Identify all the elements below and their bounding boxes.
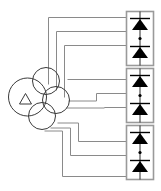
wire-module2-bottom bbox=[67, 108, 127, 109]
wire-module1-bottom bbox=[65, 46, 128, 98]
module-1-junction-dot bbox=[138, 37, 141, 40]
wire-module2-mid bbox=[69, 94, 127, 102]
module-3[interactable] bbox=[127, 126, 154, 180]
wire-module3-top bbox=[58, 123, 127, 142]
circuit-diagram bbox=[0, 0, 161, 191]
wire-bundle bbox=[45, 18, 127, 177]
module-2-junction-dot bbox=[138, 94, 141, 97]
watermark-text bbox=[6, 176, 124, 188]
lower-circle bbox=[29, 103, 56, 130]
module-2[interactable] bbox=[127, 69, 154, 123]
wire-module1-mid bbox=[57, 32, 128, 91]
diagram-canvas bbox=[0, 0, 161, 191]
wire-module1-top bbox=[49, 18, 128, 85]
module-3-junction-dot bbox=[138, 151, 141, 154]
controller-symbol bbox=[9, 68, 70, 130]
wire-module3-bottom bbox=[45, 131, 127, 177]
triangle-marker bbox=[20, 94, 32, 105]
module-1[interactable] bbox=[127, 12, 154, 66]
